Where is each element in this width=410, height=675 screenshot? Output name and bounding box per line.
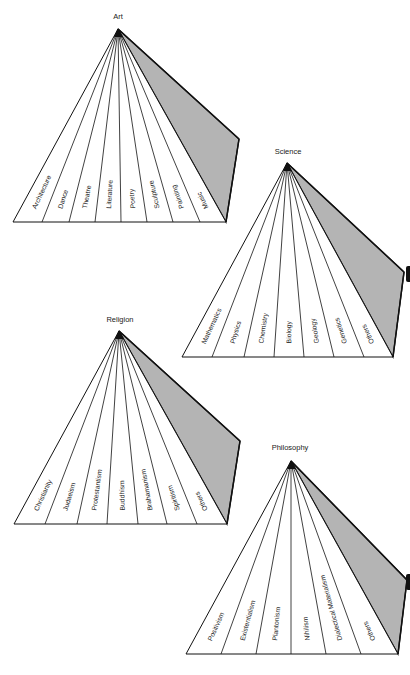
page-edge-mark-science — [406, 266, 410, 282]
pyramid-art: ArtArchitectureDanceTheatreLiteraturePoe… — [13, 12, 239, 222]
page-edge-mark-philosophy — [406, 574, 410, 590]
knowledge-pyramids-diagram: ArtArchitectureDanceTheatreLiteraturePoe… — [0, 0, 410, 675]
segment-label: Buddhism — [118, 480, 126, 511]
pyramid-title: Art — [113, 12, 124, 21]
pyramid-title: Science — [275, 147, 302, 156]
pyramid-title: Religion — [106, 315, 133, 324]
segment-label: Literature — [105, 179, 113, 208]
pyramid-title: Philosophy — [272, 443, 309, 452]
segment-label: Biology — [285, 320, 293, 343]
